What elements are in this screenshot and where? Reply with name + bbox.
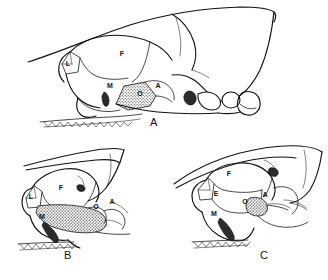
ethmoid-upper-suture	[214, 184, 262, 192]
bone-label-O: O	[137, 90, 143, 97]
rostrum-tip-outline	[59, 52, 70, 82]
cranial-suture-1	[176, 18, 181, 56]
bone-label-F: F	[120, 50, 125, 57]
pterygoid-line	[267, 205, 288, 210]
mandible-angle	[244, 228, 254, 240]
bone-label-F: F	[227, 170, 232, 177]
incisor-dark-fill	[102, 92, 109, 106]
condyle-inner-line	[240, 104, 256, 109]
bone-label-M: M	[39, 213, 45, 220]
cranial-dome-outline	[172, 14, 196, 70]
figure-c: F E O A M	[164, 140, 328, 255]
figure-plate: L F M O A	[0, 0, 328, 280]
zygomatic-arch-outline	[24, 149, 124, 167]
palate-line	[258, 216, 308, 227]
posterior-ventral-margin	[218, 112, 240, 114]
maxilla-lower-margin	[78, 98, 120, 112]
figure-b-drawing: L F M O A	[0, 140, 164, 255]
orbital-stippled-region	[246, 197, 268, 216]
bone-label-A: A	[155, 82, 160, 89]
panel-label-b: B	[64, 249, 72, 261]
frontal-parietal-suture	[132, 42, 150, 82]
bone-label-F: F	[59, 184, 64, 191]
mandible-ramus	[77, 98, 96, 117]
maxilla-outline	[66, 74, 100, 108]
bone-label-L: L	[29, 193, 34, 200]
lacrimal-outline	[198, 178, 214, 200]
bone-label-L: L	[66, 60, 71, 67]
cranial-suture-1	[303, 150, 306, 188]
panel-label-c: C	[260, 249, 268, 261]
bone-label-E: E	[214, 190, 219, 197]
foramen-dark	[182, 89, 198, 106]
alisphenoid-outline	[104, 209, 125, 229]
frontal-notch-dark	[269, 168, 279, 177]
palate-line	[96, 232, 130, 234]
bone-label-A: A	[262, 191, 267, 198]
braincase-outline	[88, 150, 124, 201]
tooth-row-line	[18, 242, 74, 244]
bone-label-M: M	[107, 82, 113, 89]
alisphenoid-suture	[156, 96, 172, 102]
bone-label-A: A	[109, 198, 114, 205]
figure-a-drawing: L F M O A	[0, 0, 328, 140]
figure-c-drawing: F E O A M	[164, 140, 328, 255]
cranial-dome	[32, 169, 99, 202]
bone-label-O: O	[93, 203, 99, 210]
alisphenoid-suture	[106, 220, 122, 225]
auditory-bulla-1	[198, 92, 221, 110]
zygomatic-arch-outline	[28, 7, 276, 62]
panel-label-a: A	[150, 116, 158, 128]
braincase-outline	[172, 12, 274, 101]
cranial-suture-2	[192, 70, 209, 78]
incisor-dark-fill	[218, 218, 234, 241]
bone-label-M: M	[211, 210, 217, 217]
frontal-suture	[80, 58, 128, 79]
bone-label-O: O	[242, 198, 248, 205]
figure-b: L F M O A	[0, 140, 164, 255]
figure-a: L F M O A	[0, 0, 328, 140]
